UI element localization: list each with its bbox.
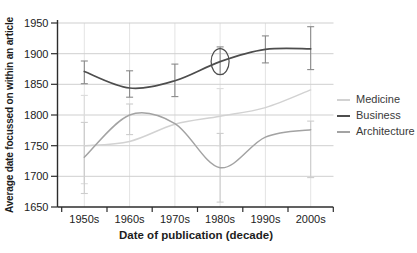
x-tick-label-1990s: 1990s bbox=[250, 213, 280, 225]
legend-swatch-architecture bbox=[337, 131, 350, 133]
y-tick-label-1950: 1950 bbox=[24, 17, 48, 29]
series-line-architecture bbox=[84, 113, 310, 168]
error-bar-architecture-1960s bbox=[126, 104, 133, 135]
series-line-medicine bbox=[84, 90, 310, 146]
y-tick-label-1700: 1700 bbox=[24, 170, 48, 182]
legend-swatch-business bbox=[337, 115, 350, 117]
y-tick-label-1900: 1900 bbox=[24, 48, 48, 60]
x-tick-label-1970s: 1970s bbox=[160, 213, 190, 225]
legend-swatch-medicine bbox=[337, 99, 350, 101]
legend-item-medicine: Medicine bbox=[337, 93, 415, 106]
plot-area: 16501700175018001850190019501950s1960s19… bbox=[24, 17, 333, 225]
x-axis-title: Date of publication (decade) bbox=[119, 229, 273, 241]
y-tick-label-1850: 1850 bbox=[24, 78, 48, 90]
legend-label: Architecture bbox=[356, 125, 415, 138]
y-axis-title: Average date focussed on within an artic… bbox=[3, 17, 15, 213]
x-tick-label-1950s: 1950s bbox=[69, 213, 99, 225]
legend-label: Business bbox=[356, 109, 401, 122]
legend-item-architecture: Architecture bbox=[337, 125, 415, 138]
chart-legend: MedicineBusinessArchitecture bbox=[337, 93, 415, 138]
y-tick-label-1650: 1650 bbox=[24, 201, 48, 213]
series-line-business bbox=[84, 48, 310, 88]
y-tick-label-1800: 1800 bbox=[24, 109, 48, 121]
y-tick-label-1750: 1750 bbox=[24, 140, 48, 152]
legend-label: Medicine bbox=[356, 93, 400, 106]
x-tick-label-2000s: 2000s bbox=[296, 213, 326, 225]
legend-item-business: Business bbox=[337, 109, 415, 122]
chart-figure: 16501700175018001850190019501950s1960s19… bbox=[0, 0, 417, 253]
x-tick-label-1960s: 1960s bbox=[115, 213, 145, 225]
x-tick-label-1980s: 1980s bbox=[205, 213, 235, 225]
